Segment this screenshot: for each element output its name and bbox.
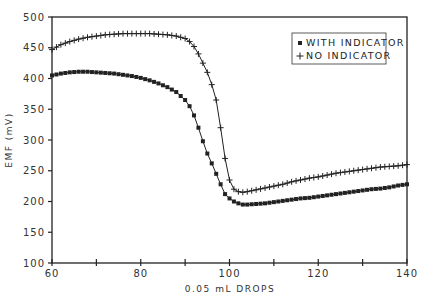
- x-tick-label: 60: [45, 268, 60, 279]
- y-tick-label: 400: [23, 73, 45, 84]
- x-tick-label: 140: [396, 268, 418, 279]
- y-axis: 100150200250300350400450500: [23, 12, 52, 269]
- y-tick-label: 250: [23, 165, 45, 176]
- y-tick-label: 350: [23, 104, 45, 115]
- x-tick-label: 80: [133, 268, 148, 279]
- y-tick-label: 450: [23, 42, 45, 53]
- legend-label-no-indicator: NO INDICATOR: [306, 50, 392, 61]
- y-axis-title: EMF (mV): [4, 112, 14, 167]
- x-tick-label: 100: [218, 268, 240, 279]
- square-marker-icon: [298, 41, 302, 45]
- y-tick-label: 100: [23, 258, 45, 269]
- y-tick-label: 500: [23, 12, 45, 23]
- x-tick-label: 120: [307, 268, 329, 279]
- y-tick-label: 150: [23, 227, 45, 238]
- legend: WITH INDICATOR NO INDICATOR: [292, 33, 405, 64]
- series-with-indicator: [50, 70, 409, 207]
- chart: 100150200250300350400450500 608010012014…: [0, 0, 424, 304]
- x-axis: 6080100120140: [45, 259, 418, 279]
- y-tick-label: 300: [23, 135, 45, 146]
- y-tick-label: 200: [23, 196, 45, 207]
- legend-label-with-indicator: WITH INDICATOR: [306, 37, 405, 48]
- x-axis-title: 0.05 mL DROPS: [185, 284, 275, 294]
